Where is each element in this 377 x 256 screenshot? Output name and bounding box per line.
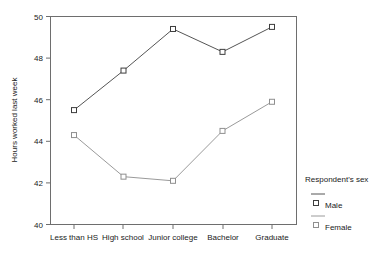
x-tick-label-high-school: High school bbox=[102, 233, 144, 242]
plot-area-frame bbox=[51, 17, 297, 225]
line-chart: 50 48 46 44 42 40 Hours worked last week… bbox=[0, 0, 377, 256]
x-tick-label-graduate: Graduate bbox=[255, 233, 289, 242]
series-layer bbox=[72, 24, 275, 183]
chart-canvas: 50 48 46 44 42 40 Hours worked last week… bbox=[0, 0, 377, 256]
y-axis-title: Hours worked last week bbox=[10, 77, 19, 163]
data-point-female-4 bbox=[270, 99, 275, 104]
legend-marker-female bbox=[314, 223, 319, 228]
x-tick-label-bachelor: Bachelor bbox=[207, 233, 239, 242]
y-tick-label-50: 50 bbox=[34, 13, 43, 22]
data-point-female-2 bbox=[171, 178, 176, 183]
x-tick-label-junior-college: Junior college bbox=[148, 233, 198, 242]
data-point-male-2 bbox=[171, 26, 176, 31]
y-axis: 50 48 46 44 42 40 bbox=[34, 13, 50, 230]
legend-title: Respondent's sex bbox=[305, 175, 368, 184]
legend-marker-male bbox=[314, 201, 319, 206]
data-point-female-0 bbox=[72, 133, 77, 138]
y-tick-label-48: 48 bbox=[34, 54, 43, 63]
series-line-female bbox=[74, 102, 272, 181]
legend: Respondent's sex Male Female bbox=[305, 175, 368, 232]
x-axis: Less than HS High school Junior college … bbox=[50, 225, 289, 243]
y-tick-label-42: 42 bbox=[34, 179, 43, 188]
series-female bbox=[72, 99, 275, 183]
data-point-female-3 bbox=[220, 128, 225, 133]
series-line-male bbox=[74, 27, 272, 110]
y-tick-label-44: 44 bbox=[34, 137, 43, 146]
data-point-male-0 bbox=[72, 108, 77, 113]
y-tick-label-46: 46 bbox=[34, 96, 43, 105]
data-point-female-1 bbox=[121, 174, 126, 179]
data-point-male-4 bbox=[270, 24, 275, 29]
x-tick-label-less-than-hs: Less than HS bbox=[50, 233, 98, 242]
y-tick-label-40: 40 bbox=[34, 221, 43, 230]
data-point-male-3 bbox=[220, 49, 225, 54]
data-point-male-1 bbox=[121, 68, 126, 73]
legend-label-female: Female bbox=[325, 223, 352, 232]
series-male bbox=[72, 24, 275, 112]
legend-label-male: Male bbox=[325, 201, 343, 210]
